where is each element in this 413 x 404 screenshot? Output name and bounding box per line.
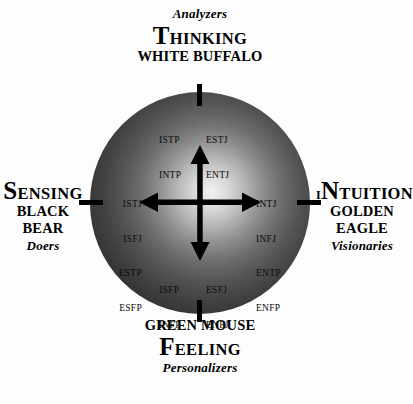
type-label: ISFP (159, 285, 181, 297)
function-label-intuition: INTUITION (316, 178, 408, 203)
animal-black-bear-line2: BEAR (2, 221, 84, 237)
function-label-thinking: THINKING (109, 23, 291, 48)
animal-golden-eagle-line2: EAGLE (316, 221, 408, 237)
type-label: INFJ (256, 234, 281, 246)
function-remainder: HINKING (170, 29, 247, 48)
pole-label-intuition: INTUITION GOLDEN EAGLE Visionaries (316, 178, 408, 254)
function-initial: S (3, 177, 17, 204)
function-initial: F (159, 333, 175, 360)
function-initial: T (153, 22, 170, 49)
type-label: ISTJ (102, 199, 142, 211)
type-label: ESTP (102, 268, 142, 280)
pole-label-sensing: SENSING BLACK BEAR Doers (2, 178, 84, 254)
function-label-feeling: FEELING (109, 334, 291, 359)
type-group-top-right: ESTJ ENTJ (206, 112, 229, 204)
function-initial: N (321, 177, 339, 204)
function-remainder: TUITION (339, 184, 413, 203)
type-group-right: INTJ INFJ ENTP ENFP (256, 176, 281, 337)
animal-green-mouse: GREEN MOUSE (109, 318, 291, 334)
tagline-doers: Doers (2, 238, 84, 254)
type-group-left: ISTJ ISFJ ESTP ESFP (102, 176, 142, 337)
type-label: ESTJ (206, 135, 229, 147)
animal-white-buffalo: WHITE BUFFALO (109, 49, 291, 65)
type-label: ESFP (102, 303, 142, 315)
tagline-visionaries: Visionaries (316, 238, 408, 254)
animal-golden-eagle-line1: GOLDEN (316, 204, 408, 220)
function-remainder: ENSING (18, 184, 83, 203)
type-label: ENTJ (206, 170, 229, 182)
type-label: ISTP (159, 135, 181, 147)
type-group-top-left: ISTP INTP (159, 112, 181, 204)
type-label: ENFP (256, 303, 281, 315)
tagline-analyzers: Analyzers (109, 6, 291, 22)
animal-black-bear-line1: BLACK (2, 204, 84, 220)
function-remainder: EELING (175, 340, 241, 359)
function-label-sensing: SENSING (2, 178, 84, 203)
tagline-personalizers: Personalizers (109, 360, 291, 376)
pole-label-thinking: Analyzers THINKING WHITE BUFFALO (109, 6, 291, 65)
type-label: INTP (159, 170, 181, 182)
type-label: INTJ (256, 199, 281, 211)
type-label: ENTP (256, 268, 281, 280)
four-way-arrow-icon (139, 145, 261, 261)
pole-label-feeling: GREEN MOUSE FEELING Personalizers (109, 318, 291, 376)
type-label: ESFJ (206, 285, 229, 297)
type-label: ISFJ (102, 234, 142, 246)
axis-tick-top (197, 84, 202, 106)
